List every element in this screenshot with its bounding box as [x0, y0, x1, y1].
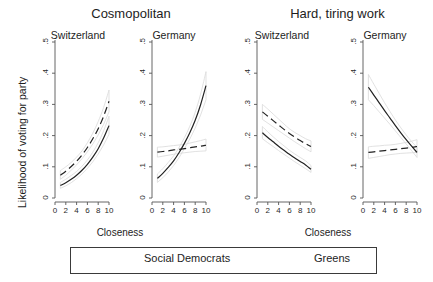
panel-3-plot	[254, 40, 311, 205]
series-line-greens	[368, 87, 417, 152]
series-line-social-democrats	[262, 112, 311, 147]
y-tick-label: .2	[138, 129, 147, 141]
y-tick-label: .1	[349, 160, 358, 172]
plot-canvas	[0, 0, 433, 282]
y-tick-label: 0	[138, 192, 147, 204]
y-tick-label: .1	[243, 160, 252, 172]
y-tick-label: .2	[349, 129, 358, 141]
y-tick-label: .4	[243, 67, 252, 79]
y-tick-label: 0	[41, 192, 50, 204]
legend-label-greens: Greens	[314, 252, 350, 264]
y-tick-label: .5	[41, 36, 50, 48]
y-tick-label: .5	[138, 36, 147, 48]
y-tick-label: .3	[349, 98, 358, 110]
y-tick-label: .4	[349, 67, 358, 79]
x-tick-label: 10	[199, 206, 213, 215]
confidence-band	[157, 72, 206, 183]
y-tick-label: 0	[349, 192, 358, 204]
legend-box: Social Democrats Greens	[70, 247, 377, 274]
x-tick-label: 10	[410, 206, 424, 215]
legend-item-social-democrats: Social Democrats	[83, 252, 230, 264]
y-tick-label: .3	[243, 98, 252, 110]
y-tick-label: .2	[243, 129, 252, 141]
y-tick-label: .1	[41, 160, 50, 172]
x-tick-label: 10	[304, 206, 318, 215]
panel-4-plot	[360, 40, 417, 205]
y-tick-label: .5	[349, 36, 358, 48]
y-tick-label: .2	[41, 129, 50, 141]
legend-item-greens: Greens	[253, 252, 350, 264]
legend-label-social-democrats: Social Democrats	[144, 252, 230, 264]
series-line-greens	[262, 133, 311, 170]
y-tick-label: 0	[243, 192, 252, 204]
x-tick-label: 10	[102, 206, 116, 215]
y-tick-label: .5	[243, 36, 252, 48]
series-line-social-democrats	[368, 147, 417, 153]
solid-line-swatch-icon	[253, 258, 305, 259]
panel-1-plot	[52, 40, 109, 205]
y-tick-label: .1	[138, 160, 147, 172]
confidence-band	[368, 140, 417, 159]
y-tick-label: .4	[41, 67, 50, 79]
y-tick-label: .3	[41, 98, 50, 110]
y-tick-label: .3	[138, 98, 147, 110]
confidence-band	[262, 104, 311, 151]
figure-root: Cosmopolitan Hard, tiring work Likelihoo…	[0, 0, 433, 282]
confidence-band	[262, 127, 311, 173]
panel-2-plot	[149, 40, 206, 205]
dashed-line-swatch-icon	[83, 258, 135, 259]
y-tick-label: .4	[138, 67, 147, 79]
